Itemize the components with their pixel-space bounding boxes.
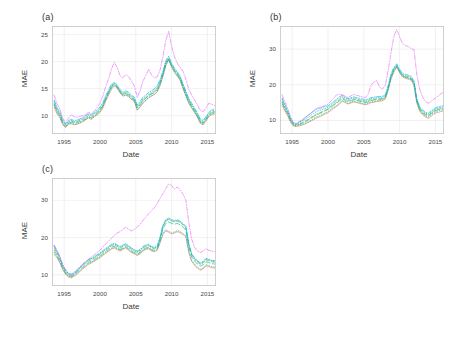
panel-c-plot — [52, 178, 216, 286]
y-tick-label: 10 — [30, 112, 48, 119]
panel-a-xlabel: Date — [46, 150, 216, 159]
x-tick-label: 2015 — [423, 138, 447, 145]
y-tick-label: 30 — [30, 196, 48, 203]
panel-a: (a) MAE Date 101520251995200020052010201… — [0, 8, 228, 168]
x-tick-label: 2010 — [160, 290, 184, 297]
y-tick-label: 10 — [258, 116, 276, 123]
panel-a-tag: (a) — [42, 12, 54, 22]
panel-b-plot — [280, 26, 444, 134]
panel-b-tag: (b) — [270, 12, 282, 22]
figure-panel-grid: (a) MAE Date 101520251995200020052010201… — [0, 0, 457, 351]
legend: Model adaptive ElnetARLassoRWadaptive La… — [0, 303, 457, 339]
panel-c-ylabel: MAE — [20, 211, 29, 251]
x-tick-label: 2005 — [352, 138, 376, 145]
panel-b-ylabel: MAE — [248, 59, 257, 99]
x-tick-label: 2005 — [124, 138, 148, 145]
x-tick-label: 2010 — [388, 138, 412, 145]
x-tick-label: 1995 — [280, 138, 304, 145]
y-tick-label: 10 — [30, 271, 48, 278]
panel-c-tag: (c) — [42, 164, 53, 174]
x-tick-label: 2000 — [316, 138, 340, 145]
panel-c: (c) MAE Date 10203019952000200520102015 — [0, 160, 228, 320]
y-tick-label: 30 — [258, 45, 276, 52]
y-tick-label: 20 — [30, 234, 48, 241]
x-tick-label: 2015 — [195, 290, 219, 297]
panel-b-xlabel: Date — [274, 150, 444, 159]
x-tick-label: 2010 — [160, 138, 184, 145]
y-tick-label: 15 — [30, 85, 48, 92]
x-tick-label: 2000 — [88, 290, 112, 297]
y-tick-label: 20 — [30, 58, 48, 65]
y-tick-label: 25 — [30, 31, 48, 38]
y-tick-label: 20 — [258, 81, 276, 88]
x-tick-label: 2005 — [124, 290, 148, 297]
x-tick-label: 1995 — [52, 138, 76, 145]
panel-b: (b) MAE Date 10203019952000200520102015 — [228, 8, 457, 168]
panel-a-ylabel: MAE — [20, 59, 29, 99]
x-tick-label: 2000 — [88, 138, 112, 145]
x-tick-label: 2015 — [195, 138, 219, 145]
panel-a-plot — [52, 26, 216, 134]
x-tick-label: 1995 — [52, 290, 76, 297]
